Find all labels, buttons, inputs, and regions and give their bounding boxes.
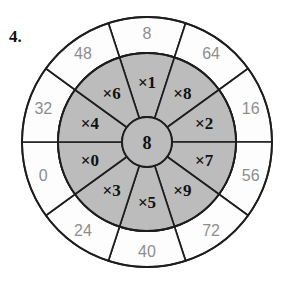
multiplier-label: ×9: [173, 181, 191, 200]
product-label: 64: [202, 45, 220, 62]
multiplication-wheel: 864165672402403248 ×1×8×2×7×9×5×3×0×4×6 …: [0, 0, 288, 285]
multiplier-label: ×7: [195, 151, 214, 170]
multiplier-label: ×3: [103, 181, 121, 200]
product-label: 16: [242, 100, 260, 117]
multiplier-label: ×4: [81, 114, 100, 133]
multiplier-label: ×8: [173, 84, 191, 103]
product-label: 40: [138, 243, 156, 260]
product-label: 0: [39, 167, 48, 184]
product-label: 48: [74, 45, 92, 62]
multiplier-label: ×2: [195, 114, 213, 133]
worksheet-item: 4. 864165672402403248 ×1×8×2×7×9×5×3×0×4…: [0, 0, 288, 285]
multiplier-label: ×5: [138, 193, 156, 212]
product-label: 24: [74, 222, 92, 239]
multiplier-label: ×6: [103, 84, 121, 103]
multiplier-label: ×1: [138, 73, 156, 92]
product-label: 72: [202, 222, 220, 239]
product-label: 8: [143, 25, 152, 42]
product-label: 32: [34, 100, 52, 117]
multiplier-label: ×0: [81, 151, 99, 170]
product-label: 56: [242, 167, 260, 184]
center-number-label: 8: [143, 133, 152, 153]
